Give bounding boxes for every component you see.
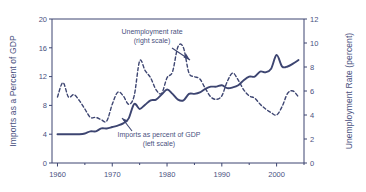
right-ytick-label: 10 [310,39,318,48]
left-ytick-label: 4 [43,130,47,139]
unemployment-annotation-line2: (right scale) [134,37,171,45]
axes-group: 04812162002468101219601970198019902000 [39,15,319,179]
right-ytick-label: 8 [310,63,314,72]
left-ytick-label: 12 [39,72,47,81]
unemployment-rate-line [57,44,298,122]
right-ytick-label: 12 [310,15,318,24]
imports-annotation-line1: Imports as percent of GDP [118,131,201,139]
chart-svg: 04812162002468101219601970198019902000 U… [0,0,366,192]
right-ytick-label: 4 [310,111,314,120]
right-ytick-label: 6 [310,87,314,96]
right-axis-title: Unemployment Rate (percent) [344,33,354,150]
left-ytick-label: 20 [39,15,47,24]
xtick-label: 1990 [213,170,230,179]
series-group [57,44,298,134]
xtick-label: 1980 [159,170,176,179]
xtick-label: 2000 [268,170,285,179]
left-ytick-label: 8 [43,101,47,110]
left-axis-title: Imports as a Percent of GDP [8,35,18,147]
chart-container: 04812162002468101219601970198019902000 U… [0,0,366,192]
right-ytick-label: 0 [310,159,314,168]
xtick-label: 1970 [104,170,121,179]
annotations-group: Unemployment rate(right scale)Imports as… [118,28,201,148]
xtick-label: 1960 [49,170,66,179]
imports-gdp-line [57,55,298,134]
left-ytick-label: 16 [39,44,47,53]
unemployment-annotation-line1: Unemployment rate [121,28,182,36]
left-ytick-label: 0 [43,159,47,168]
right-ytick-label: 2 [310,135,314,144]
imports-annotation-line2: (left scale) [143,140,175,148]
